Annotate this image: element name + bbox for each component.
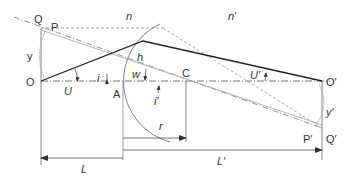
label-P: P bbox=[51, 21, 58, 33]
image-arc bbox=[317, 84, 324, 124]
label-A: A bbox=[113, 88, 121, 100]
angle-U-arc bbox=[75, 69, 77, 81]
label-Q-prime: Q′ bbox=[326, 133, 337, 145]
object-arc bbox=[39, 31, 45, 78]
label-i-prime: i′ bbox=[154, 95, 159, 107]
label-U-prime: U′ bbox=[250, 69, 261, 81]
label-O: O bbox=[26, 76, 35, 88]
label-C: C bbox=[182, 67, 190, 79]
label-i: i bbox=[97, 72, 100, 84]
label-O-prime: O′ bbox=[326, 76, 337, 88]
optics-diagram: Q P n n′ y O U i A h w C i′ U′ O′ r y′ P… bbox=[0, 0, 347, 181]
label-n: n bbox=[126, 10, 132, 22]
label-w: w bbox=[132, 68, 141, 80]
label-U: U bbox=[64, 85, 72, 97]
label-n-prime: n′ bbox=[228, 10, 237, 22]
angle-i-prime-arc bbox=[158, 86, 159, 93]
label-L-prime: L′ bbox=[217, 155, 226, 167]
angle-U-prime-arc bbox=[265, 73, 266, 81]
label-P-prime: P′ bbox=[303, 133, 312, 145]
label-r: r bbox=[159, 120, 164, 132]
label-y-prime: y′ bbox=[325, 106, 335, 118]
label-L: L bbox=[81, 163, 87, 175]
angle-w-arc bbox=[145, 69, 146, 80]
label-h: h bbox=[137, 51, 143, 63]
label-y: y bbox=[27, 50, 33, 62]
label-Q: Q bbox=[34, 13, 43, 25]
